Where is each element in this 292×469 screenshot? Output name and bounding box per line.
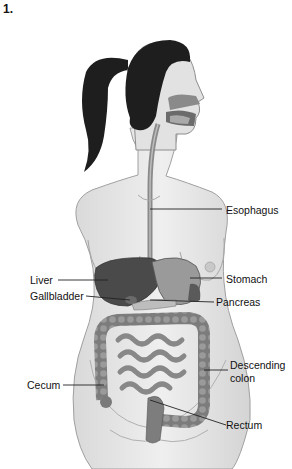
digestive-system-illustration [0,0,292,469]
label-esophagus: Esophagus [226,204,279,216]
label-stomach: Stomach [226,273,267,285]
label-liver: Liver [30,274,53,286]
label-gallbladder: Gallbladder [30,290,84,302]
cecum-organ [100,396,112,408]
label-descending-colon-line1: Descending [230,359,285,371]
label-pancreas: Pancreas [216,296,260,308]
label-descending-colon-line2: colon [230,372,255,384]
label-cecum: Cecum [27,379,60,391]
label-rectum: Rectum [226,419,262,431]
